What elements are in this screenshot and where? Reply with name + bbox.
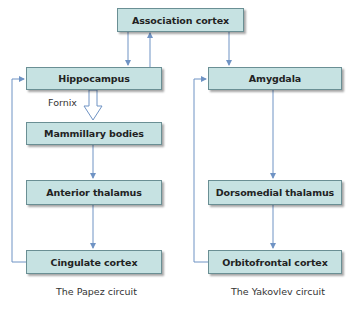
node-dorsomedial-thalamus: Dorsomedial thalamus	[208, 180, 342, 205]
node-label: Mammillary bodies	[44, 128, 144, 139]
fornix-arrow	[84, 90, 102, 120]
node-mammillary-bodies: Mammillary bodies	[26, 122, 162, 145]
node-label: Dorsomedial thalamus	[216, 187, 334, 198]
node-amygdala: Amygdala	[208, 67, 342, 90]
node-hippocampus: Hippocampus	[26, 67, 162, 90]
fornix-label: Fornix	[48, 97, 77, 108]
node-cingulate-cortex: Cingulate cortex	[26, 250, 162, 274]
caption-papez: The Papez circuit	[56, 286, 137, 297]
node-label: Association cortex	[132, 15, 229, 26]
node-label: Amygdala	[249, 73, 301, 84]
node-label: Hippocampus	[58, 73, 129, 84]
caption-yakovlev: The Yakovlev circuit	[231, 286, 325, 297]
node-orbitofrontal-cortex: Orbitofrontal cortex	[208, 250, 342, 274]
node-label: Cingulate cortex	[51, 257, 138, 268]
node-label: Anterior thalamus	[46, 187, 142, 198]
node-label: Orbitofrontal cortex	[222, 257, 327, 268]
node-association-cortex: Association cortex	[117, 8, 244, 32]
node-anterior-thalamus: Anterior thalamus	[26, 180, 162, 205]
